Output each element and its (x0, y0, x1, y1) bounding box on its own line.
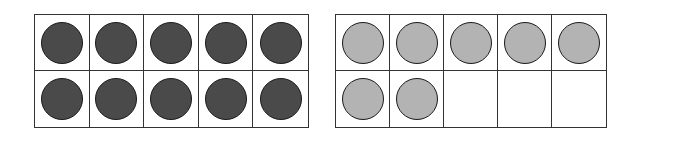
light-counter-circle-icon (450, 22, 492, 64)
ten-frame-cell (199, 15, 254, 71)
light-counter-circle-icon (396, 22, 438, 64)
ten-frame-cell (90, 71, 145, 127)
ten-frame-cell (444, 15, 498, 71)
ten-frame-cell (253, 71, 308, 127)
dark-counter-circle-icon (95, 78, 137, 120)
ten-frame-cell (498, 71, 552, 127)
light-counter-circle-icon (342, 78, 384, 120)
dark-counter-circle-icon (205, 22, 247, 64)
dark-counter-circle-icon (41, 22, 83, 64)
dark-counter-circle-icon (150, 22, 192, 64)
ten-frame-cell (390, 71, 444, 127)
ten-frame-cell (199, 71, 254, 127)
dark-counter-circle-icon (205, 78, 247, 120)
light-counter-circle-icon (342, 22, 384, 64)
dark-counter-circle-icon (260, 78, 302, 120)
ten-frame-cell (35, 71, 90, 127)
ten-frame-cell (390, 15, 444, 71)
dark-counter-circle-icon (41, 78, 83, 120)
ten-frame-cell (90, 15, 145, 71)
ten-frame-cell (144, 15, 199, 71)
ten-frame-cell (552, 15, 606, 71)
ten-frame-cell (336, 71, 390, 127)
left-ten-frame (34, 14, 309, 128)
light-counter-circle-icon (504, 22, 546, 64)
dark-counter-circle-icon (260, 22, 302, 64)
ten-frame-cell (444, 71, 498, 127)
ten-frame-cell (552, 71, 606, 127)
dark-counter-circle-icon (150, 78, 192, 120)
ten-frame-cell (498, 15, 552, 71)
light-counter-circle-icon (396, 78, 438, 120)
light-counter-circle-icon (558, 22, 600, 64)
ten-frame-cell (253, 15, 308, 71)
dark-counter-circle-icon (95, 22, 137, 64)
right-ten-frame (335, 14, 607, 128)
ten-frame-cell (35, 15, 90, 71)
ten-frame-cell (336, 15, 390, 71)
ten-frame-cell (144, 71, 199, 127)
